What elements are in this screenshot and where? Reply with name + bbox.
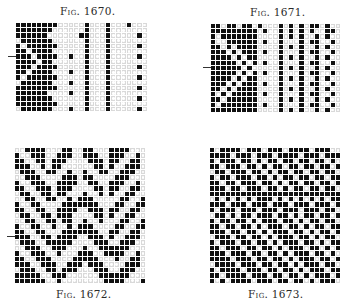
raised-cell bbox=[27, 96, 31, 100]
lowered-cell bbox=[94, 197, 98, 201]
raised-cell bbox=[130, 268, 134, 272]
lowered-cell bbox=[79, 60, 83, 64]
lowered-cell bbox=[210, 197, 214, 201]
lowered-cell bbox=[36, 262, 40, 266]
lowered-cell bbox=[130, 202, 134, 206]
lowered-cell bbox=[78, 170, 82, 174]
lowered-cell bbox=[58, 60, 62, 64]
lowered-cell bbox=[141, 246, 145, 250]
lowered-cell bbox=[253, 66, 257, 70]
lowered-cell bbox=[268, 61, 272, 65]
raised-cell bbox=[41, 279, 45, 283]
lowered-cell bbox=[52, 181, 56, 185]
lowered-cell bbox=[273, 76, 277, 80]
raised-cell bbox=[210, 219, 214, 223]
raised-cell bbox=[99, 240, 103, 244]
raised-cell bbox=[120, 170, 124, 174]
lowered-cell bbox=[122, 44, 126, 48]
lowered-cell bbox=[273, 45, 277, 49]
raised-cell bbox=[220, 262, 224, 266]
raised-cell bbox=[109, 186, 113, 190]
lowered-cell bbox=[273, 71, 277, 75]
raised-cell bbox=[299, 97, 303, 101]
raised-cell bbox=[37, 23, 41, 27]
lowered-cell bbox=[53, 91, 57, 95]
lowered-cell bbox=[278, 159, 282, 163]
raised-cell bbox=[289, 45, 293, 49]
lowered-cell bbox=[62, 170, 66, 174]
lowered-cell bbox=[52, 202, 56, 206]
raised-cell bbox=[232, 34, 236, 38]
raised-cell bbox=[211, 45, 215, 49]
raised-cell bbox=[320, 197, 324, 201]
raised-cell bbox=[262, 153, 266, 157]
lowered-cell bbox=[310, 159, 314, 163]
raised-cell bbox=[211, 40, 215, 44]
lowered-cell bbox=[127, 75, 131, 79]
raised-cell bbox=[232, 108, 236, 112]
lowered-cell bbox=[104, 164, 108, 168]
raised-cell bbox=[315, 159, 319, 163]
lowered-cell bbox=[336, 76, 340, 80]
lowered-cell bbox=[100, 75, 104, 79]
lowered-cell bbox=[74, 39, 78, 43]
lowered-cell bbox=[231, 175, 235, 179]
lowered-cell bbox=[20, 175, 24, 179]
lowered-cell bbox=[320, 235, 324, 239]
lowered-cell bbox=[111, 44, 115, 48]
lowered-cell bbox=[257, 164, 261, 168]
lowered-cell bbox=[73, 251, 77, 255]
raised-cell bbox=[310, 268, 314, 272]
lowered-cell bbox=[136, 192, 140, 196]
raised-cell bbox=[210, 279, 214, 283]
raised-cell bbox=[210, 268, 214, 272]
raised-cell bbox=[42, 102, 46, 106]
raised-cell bbox=[37, 65, 41, 69]
lowered-cell bbox=[46, 153, 50, 157]
lowered-cell bbox=[294, 235, 298, 239]
raised-cell bbox=[46, 268, 50, 272]
lowered-cell bbox=[236, 262, 240, 266]
lowered-cell bbox=[268, 175, 272, 179]
lowered-cell bbox=[220, 246, 224, 250]
lowered-cell bbox=[215, 175, 219, 179]
raised-cell bbox=[136, 186, 140, 190]
lowered-cell bbox=[120, 208, 124, 212]
raised-cell bbox=[99, 159, 103, 163]
lowered-cell bbox=[320, 71, 324, 75]
raised-cell bbox=[273, 268, 277, 272]
lowered-cell bbox=[94, 192, 98, 196]
lowered-cell bbox=[294, 45, 298, 49]
raised-cell bbox=[336, 197, 340, 201]
lowered-cell bbox=[284, 50, 288, 54]
lowered-cell bbox=[273, 82, 277, 86]
raised-cell bbox=[83, 257, 87, 261]
lowered-cell bbox=[90, 33, 94, 37]
lowered-cell bbox=[58, 49, 62, 53]
raised-cell bbox=[53, 65, 57, 69]
lowered-cell bbox=[99, 153, 103, 157]
raised-cell bbox=[247, 45, 251, 49]
lowered-cell bbox=[130, 219, 134, 223]
lowered-cell bbox=[122, 70, 126, 74]
lowered-cell bbox=[74, 70, 78, 74]
raised-cell bbox=[242, 45, 246, 49]
raised-cell bbox=[62, 268, 66, 272]
lowered-cell bbox=[141, 186, 145, 190]
raised-cell bbox=[325, 108, 329, 112]
raised-cell bbox=[294, 230, 298, 234]
lowered-cell bbox=[25, 208, 29, 212]
raised-cell bbox=[331, 192, 335, 196]
raised-cell bbox=[141, 202, 145, 206]
raised-cell bbox=[85, 91, 89, 95]
lowered-cell bbox=[273, 97, 277, 101]
raised-cell bbox=[331, 224, 335, 228]
raised-cell bbox=[62, 175, 66, 179]
raised-cell bbox=[21, 49, 25, 53]
raised-cell bbox=[336, 268, 340, 272]
raised-cell bbox=[310, 153, 314, 157]
raised-cell bbox=[241, 202, 245, 206]
raised-cell bbox=[25, 197, 29, 201]
lowered-cell bbox=[132, 54, 136, 58]
lowered-cell bbox=[284, 34, 288, 38]
